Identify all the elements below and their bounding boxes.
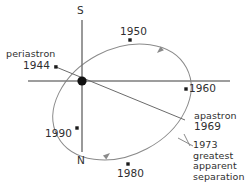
separation-note-line-separation: separation — [193, 172, 251, 183]
marker-1990 — [75, 126, 78, 129]
year-1990-label: 1990 — [45, 128, 72, 139]
year-1973-label: 1973 — [193, 140, 251, 151]
direction-arrow-lower — [103, 151, 112, 159]
axis-label-south: S — [77, 5, 84, 16]
marker-1980 — [126, 162, 129, 165]
separation-note: 1973 greatest apparent separation — [193, 140, 251, 182]
orbit-ellipse — [33, 21, 212, 183]
periastron-year-label: 1944 — [23, 60, 50, 71]
orbit-diagram: S N periastron 1944 1950 1960 apastron 1… — [0, 0, 251, 194]
year-1950-label: 1950 — [120, 26, 147, 37]
leader-line-1973 — [178, 138, 193, 146]
primary-star-marker — [77, 76, 86, 85]
marker-1960 — [184, 87, 187, 90]
year-1980-label: 1980 — [117, 168, 144, 179]
apsidal-line — [56, 67, 185, 120]
apastron-year-label: 1969 — [194, 121, 221, 132]
marker-1950 — [128, 38, 131, 41]
separation-note-line-apparent: apparent — [193, 161, 251, 172]
leader-tick-1973 — [184, 134, 190, 146]
marker-1944 — [54, 65, 57, 68]
year-1960-label: 1960 — [189, 83, 216, 94]
periastron-caption: periastron — [6, 48, 55, 59]
axis-label-north: N — [77, 155, 85, 166]
